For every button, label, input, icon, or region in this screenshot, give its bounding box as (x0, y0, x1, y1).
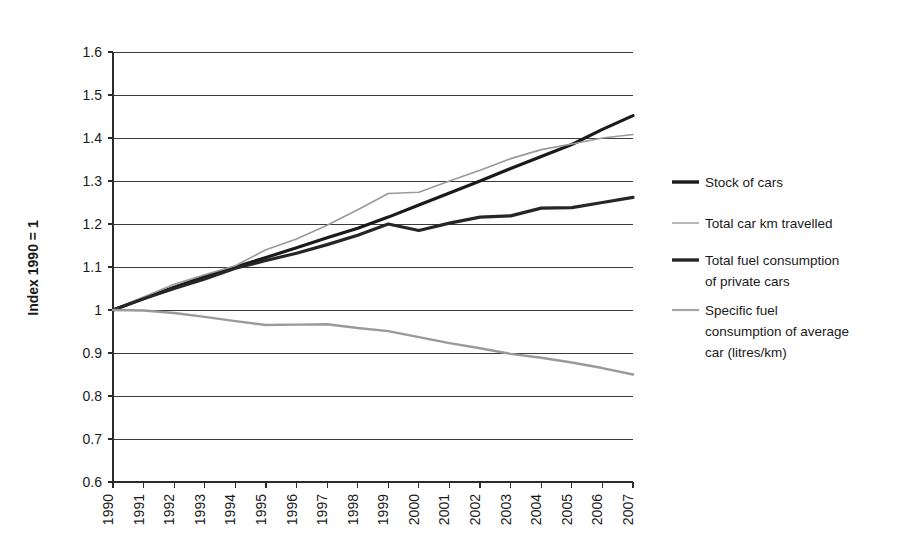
x-tick-label: 2004 (528, 494, 544, 525)
y-tick-label: 1 (94, 302, 102, 318)
x-tick-label: 2006 (589, 494, 605, 525)
line-chart-figure: 0.60.70.80.911.11.21.31.41.51.6 19901991… (0, 0, 903, 544)
y-tick-label: 0.6 (83, 474, 103, 490)
y-tick-label: 0.9 (83, 345, 103, 361)
x-tick-label: 1993 (192, 494, 208, 525)
y-tick-label: 1.5 (83, 87, 103, 103)
legend-label-2: Total fuel consumption (705, 253, 839, 268)
x-tick-label: 2002 (467, 494, 483, 525)
y-tick-label: 1.4 (83, 130, 103, 146)
y-tick-label: 1.6 (83, 44, 103, 60)
legend-label-3: Specific fuel (705, 303, 778, 318)
legend-label-0: Stock of cars (705, 175, 783, 190)
x-tick-label: 2003 (498, 494, 514, 525)
y-axis-title: Index 1990 = 1 (25, 220, 41, 316)
y-tick-label: 1.3 (83, 173, 103, 189)
x-tick-label: 1996 (284, 494, 300, 525)
y-tick-label: 1.2 (83, 216, 103, 232)
legend-label-2: of private cars (705, 274, 790, 289)
x-tick-label: 2001 (436, 494, 452, 525)
x-tick-label: 2007 (620, 494, 636, 525)
x-tick-label: 1999 (375, 494, 391, 525)
x-tick-label: 1994 (222, 494, 238, 525)
x-tick-label: 1992 (161, 494, 177, 525)
legend-label-3: car (litres/km) (705, 345, 787, 360)
legend-label-3: consumption of average (705, 324, 849, 339)
chart-background (0, 0, 903, 544)
x-tick-label: 1997 (314, 494, 330, 525)
x-tick-label: 2005 (559, 494, 575, 525)
y-tick-label: 1.1 (83, 259, 103, 275)
x-tick-label: 1995 (253, 494, 269, 525)
legend-label-1: Total car km travelled (705, 216, 833, 231)
x-tick-label: 1991 (131, 494, 147, 525)
y-tick-label: 0.8 (83, 388, 103, 404)
x-tick-label: 1990 (100, 494, 116, 525)
x-tick-label: 1998 (345, 494, 361, 525)
y-tick-label: 0.7 (83, 431, 103, 447)
x-tick-label: 2000 (406, 494, 422, 525)
